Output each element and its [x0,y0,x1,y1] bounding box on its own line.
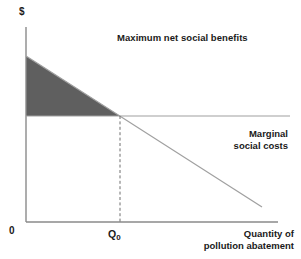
origin-label: 0 [9,225,15,237]
max-net-social-benefits-label: Maximum net social benefits [117,32,248,44]
economics-figure: $ 0 Q0 Maximum net social benefits Margi… [0,0,301,259]
q0-label-subscript: 0 [116,233,120,242]
q0-label-main: Q [108,228,116,240]
marginal-social-costs-label-line2: social costs [234,140,288,151]
marginal-social-costs-label-line1: Marginal [249,128,288,139]
marginal-social-benefits-curve [26,56,262,207]
marginal-social-costs-label: Marginalsocial costs [234,128,288,151]
x-axis-title-line1: Quantity of [244,228,294,239]
x-axis-title: Quantity ofpollution abatement [204,228,294,251]
y-axis-label: $ [19,6,25,18]
x-axis-title-line2: pollution abatement [204,240,294,251]
q0-axis-label: Q0 [108,228,121,243]
